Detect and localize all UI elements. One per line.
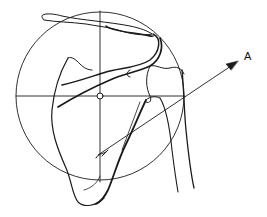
scapula-border-lateral-inner bbox=[122, 102, 140, 150]
arrow-label: A bbox=[244, 50, 251, 62]
arrow-tail-mark bbox=[96, 150, 108, 158]
scapula-border-lateral bbox=[96, 100, 146, 204]
humeral-head-bottom bbox=[146, 97, 160, 100]
direction-arrow-line bbox=[98, 64, 234, 155]
humerus-lateral bbox=[182, 70, 194, 188]
scapular-spine bbox=[62, 34, 159, 85]
clavicle-outline bbox=[42, 14, 152, 35]
center-point bbox=[97, 93, 103, 99]
scapula-inferior-inner bbox=[84, 176, 100, 190]
scapular-spine-lower bbox=[58, 38, 162, 107]
shoulder-diagram: A bbox=[0, 0, 267, 217]
scapula-superior-angle bbox=[68, 57, 92, 70]
